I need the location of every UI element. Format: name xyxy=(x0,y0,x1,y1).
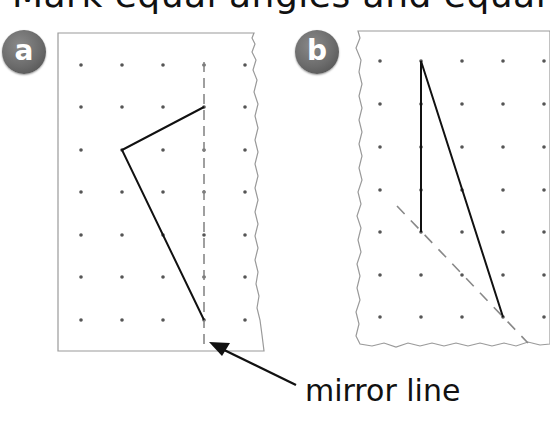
badge-a-letter: a xyxy=(15,34,34,67)
badge-b-letter: b xyxy=(307,34,327,67)
mirror-line-label: mirror line xyxy=(305,373,460,408)
figures xyxy=(0,0,550,428)
panel-a-frame xyxy=(58,33,264,351)
badge-a: a xyxy=(2,30,46,74)
panel-b-frame xyxy=(356,31,550,347)
badge-b: b xyxy=(295,30,339,74)
